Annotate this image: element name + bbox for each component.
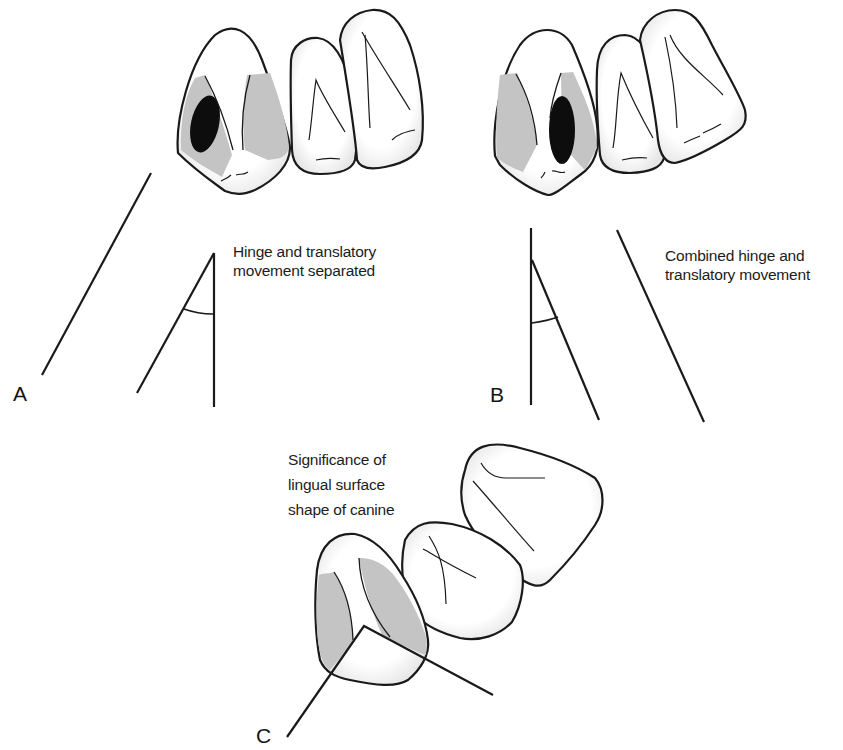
caption-c-line-2: lingual surface — [288, 472, 394, 497]
panel-label-b: B — [490, 383, 504, 407]
caption-panel-a: Hinge and translatory movement separated — [233, 242, 376, 280]
caption-b-line-2: translatory movement — [665, 265, 810, 284]
caption-c-line-3: shape of canine — [288, 497, 394, 522]
angle-arc-b — [532, 317, 558, 323]
panel-b-teeth — [494, 10, 745, 195]
panel-a-teeth — [178, 10, 423, 194]
caption-a-line-2: movement separated — [233, 261, 376, 280]
caption-b-line-1: Combined hinge and — [665, 246, 810, 265]
caption-panel-b: Combined hinge and translatory movement — [665, 246, 810, 284]
panel-a-lines — [42, 173, 214, 407]
panel-label-a: A — [13, 382, 27, 406]
diagram-drawing — [0, 0, 843, 750]
dental-diagram: Hinge and translatory movement separated… — [0, 0, 843, 750]
incline-line-a — [137, 253, 214, 393]
panel-label-c: C — [256, 724, 271, 748]
mandibular-path-line-a — [42, 173, 151, 375]
caption-panel-c: Significance of lingual surface shape of… — [288, 447, 394, 522]
angle-arc-a — [184, 309, 213, 314]
caption-c-line-1: Significance of — [288, 447, 394, 472]
caption-a-line-1: Hinge and translatory — [233, 242, 376, 261]
canine-a — [178, 29, 290, 194]
incline-line-b — [532, 260, 599, 420]
canine-b — [494, 30, 597, 195]
